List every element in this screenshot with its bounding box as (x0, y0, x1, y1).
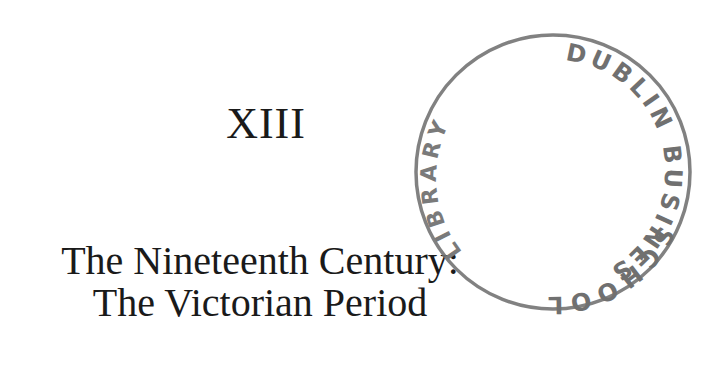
stamp-circle-icon: DUBLIN BUSINESS LIBRARY SCHOOL (405, 20, 705, 320)
library-stamp: DUBLIN BUSINESS LIBRARY SCHOOL (405, 20, 705, 320)
book-page: XIII The Nineteenth Century: The Victori… (0, 0, 722, 379)
svg-text:LIBRARY: LIBRARY (416, 112, 467, 263)
stamp-left-text: LIBRARY (416, 112, 467, 263)
